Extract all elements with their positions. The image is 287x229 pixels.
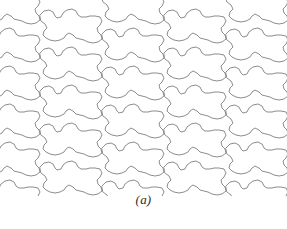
tessellation-figure — [0, 0, 287, 196]
figure-page: (a) — [0, 0, 287, 229]
figure-caption: (a) — [0, 192, 287, 208]
tessellation-canvas — [0, 0, 287, 196]
